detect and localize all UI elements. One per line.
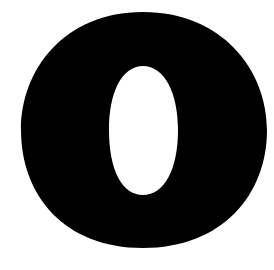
letter-o-shape	[21, 12, 267, 248]
letter-o-glyph	[0, 0, 274, 270]
